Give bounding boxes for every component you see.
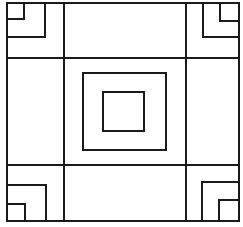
corner-bottom-right-large-square [202,182,239,221]
quilt-pattern-diagram [0,0,243,227]
corner-bottom-right-small-square [219,200,239,221]
center-inner-square [103,92,144,131]
center-outer-square [83,73,166,150]
outer-border [7,3,239,221]
corner-motifs [7,3,239,221]
center-squares [83,73,166,150]
corner-top-right-small-square [220,3,239,21]
corner-bottom-left-small-square [7,204,25,221]
corner-top-left-small-square [7,3,24,19]
grid-lines [7,3,239,221]
